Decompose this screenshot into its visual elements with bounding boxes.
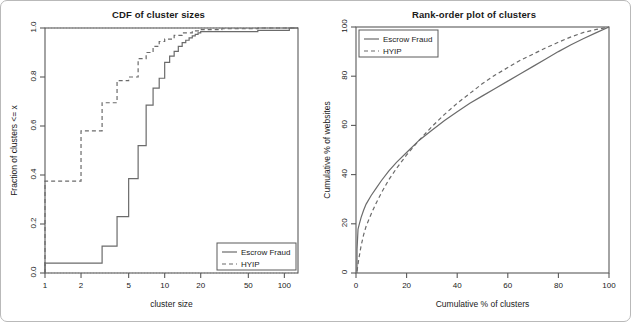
cdf-ytick-label: 0.0 — [29, 266, 38, 278]
rank-order-xtick-label: 40 — [453, 281, 462, 290]
cdf-legend-label: Escrow Fraud — [241, 248, 290, 257]
rank-order-ytick-label: 20 — [340, 218, 349, 227]
cdf-legend: Escrow FraudHYIP — [217, 243, 296, 270]
cdf-xtick-label: 20 — [196, 281, 205, 290]
cdf-ytick-label: 0.2 — [29, 217, 38, 229]
cdf-series-escrow-fraud — [45, 28, 298, 273]
rank-order-x-axis-label: Cumulative % of clusters — [436, 299, 530, 309]
rank-order-series-escrow-fraud — [357, 27, 609, 273]
panel-cdf: CDF of cluster sizes 1251020501000.00.20… — [1, 1, 316, 322]
rank-order-xtick-label: 20 — [402, 281, 411, 290]
figure-container: CDF of cluster sizes 1251020501000.00.20… — [0, 0, 631, 322]
rank-order-ytick-label: 60 — [340, 119, 349, 128]
cdf-xtick-label: 100 — [278, 281, 292, 290]
rank-order-xtick-label: 80 — [554, 281, 563, 290]
rank-order-ytick-label: 80 — [340, 70, 349, 79]
rank-order-y-axis-label: Cumulative % of websites — [322, 101, 332, 198]
rank-order-xtick-label: 100 — [602, 281, 616, 290]
rank-order-legend: Escrow FraudHYIP — [359, 30, 438, 57]
cdf-xtick-label: 10 — [160, 281, 169, 290]
cdf-legend-label: HYIP — [241, 260, 260, 269]
rank-order-legend-label: HYIP — [383, 47, 402, 56]
rank-order-legend-label: Escrow Fraud — [383, 35, 432, 44]
cdf-xtick-label: 2 — [79, 281, 84, 290]
cdf-x-axis-label: cluster size — [150, 299, 193, 309]
rank-order-series-hyip — [357, 27, 609, 271]
rank-order-ytick-label: 40 — [340, 169, 349, 178]
cdf-y-axis-label: Fraction of clusters <= x — [9, 104, 19, 195]
cdf-ytick-label: 0.8 — [29, 70, 38, 82]
cdf-series-hyip — [45, 28, 298, 273]
rank-order-ytick-label: 100 — [340, 19, 349, 33]
rank-order-plot: 020406080100020406080100Cumulative % of … — [316, 1, 631, 322]
cdf-xtick-label: 5 — [126, 281, 131, 290]
cdf-xtick-label: 1 — [43, 281, 48, 290]
cdf-ytick-label: 0.6 — [29, 119, 38, 131]
rank-order-ytick-label: 0 — [340, 269, 349, 274]
cdf-ytick-label: 1.0 — [29, 21, 38, 33]
rank-order-xtick-label: 0 — [354, 281, 359, 290]
rank-order-xtick-label: 60 — [503, 281, 512, 290]
cdf-xtick-label: 50 — [244, 281, 253, 290]
panel-rank-order: Rank-order plot of clusters 020406080100… — [316, 1, 631, 322]
cdf-plot: 1251020501000.00.20.40.60.81.0cluster si… — [1, 1, 316, 322]
cdf-ytick-label: 0.4 — [29, 168, 38, 180]
